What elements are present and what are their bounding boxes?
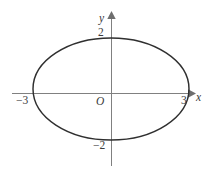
y-axis-label: y	[99, 13, 104, 25]
tick-label-x-positive: 3	[181, 95, 187, 107]
origin-label: O	[96, 96, 104, 108]
tick-label-y-positive: 2	[98, 27, 104, 39]
tick-label-y-negative: −2	[93, 140, 105, 152]
coordinate-plane-figure: y x 2 −2 −3 3 O	[0, 0, 209, 173]
tick-label-x-negative: −3	[16, 95, 28, 107]
y-axis-arrowhead	[107, 11, 115, 19]
x-axis-label: x	[196, 92, 201, 104]
